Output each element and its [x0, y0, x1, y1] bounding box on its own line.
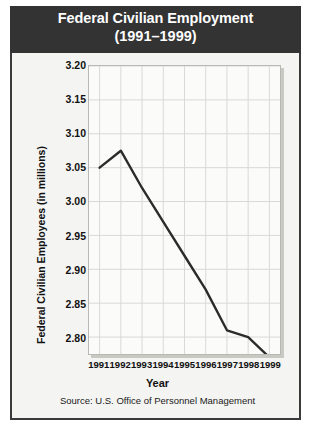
chart-header: Federal Civilian Employment (1991–1999): [10, 6, 301, 53]
x-axis-tick-labels: 199119921993199419951996199719981999: [88, 359, 281, 375]
y-axis-tick-3.10: 3.10: [50, 127, 86, 139]
grid-lines: [89, 66, 280, 354]
y-axis-title: Federal Civilian Employees (in millions): [35, 145, 47, 345]
y-axis-tick-2.95: 2.95: [50, 230, 86, 242]
y-axis-tick-3.20: 3.20: [50, 59, 86, 71]
y-axis-tick-3.00: 3.00: [50, 195, 86, 207]
x-axis-title: Year: [12, 377, 303, 389]
y-axis-tick-labels: 3.203.153.103.053.002.952.902.852.80: [50, 65, 86, 355]
x-axis-tick-1999: 1999: [255, 359, 285, 370]
y-axis-tick-2.80: 2.80: [50, 332, 86, 344]
y-axis-tick-3.05: 3.05: [50, 161, 86, 173]
y-axis-tick-2.90: 2.90: [50, 264, 86, 276]
chart-title: Federal Civilian Employment: [10, 10, 301, 27]
y-axis-tick-3.15: 3.15: [50, 93, 86, 105]
plot-area: [88, 65, 281, 355]
line-chart-svg: [89, 66, 280, 354]
y-axis-tick-2.85: 2.85: [50, 298, 86, 310]
chart-figure: Federal Civilian Employment (1991–1999) …: [10, 6, 301, 420]
chart-subtitle: (1991–1999): [10, 28, 301, 45]
source-note: Source: U.S. Office of Personnel Managem…: [12, 395, 303, 406]
chart-panel: Federal Civilian Employees (in millions)…: [10, 53, 301, 420]
